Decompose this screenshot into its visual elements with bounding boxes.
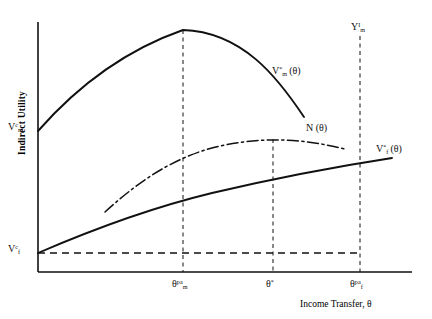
chart-svg <box>0 0 432 319</box>
curve-vm-star <box>38 30 304 131</box>
label-vm-c: Vcm <box>8 122 23 133</box>
label-curve-vm-star: V*m(θ) <box>272 66 301 77</box>
curve-n-theta <box>105 140 345 212</box>
xtick-theta-f-pa: θpaf <box>350 279 363 290</box>
label-ym-I: YIm <box>351 22 365 33</box>
xtick-theta-m-pa: θpam <box>172 279 187 290</box>
label-curve-n-theta: N (θ) <box>306 123 327 133</box>
figure-canvas: Indirect Utility Income Transfer, θ Vcm … <box>0 0 432 319</box>
x-axis-title: Income Transfer, θ <box>300 299 371 309</box>
xtick-theta-star: θ* <box>266 279 274 289</box>
curve-vf-star <box>38 158 392 253</box>
label-curve-vf-star: V*f(θ) <box>376 144 402 155</box>
label-vf-c: Vcf <box>8 244 20 255</box>
